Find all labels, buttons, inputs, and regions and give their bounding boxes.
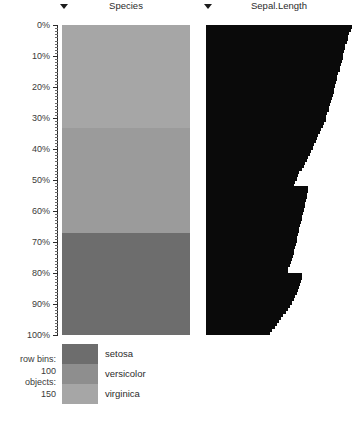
legend-label: setosa [105,344,146,364]
axis-tick-minor [55,189,58,190]
axis-tick-minor [55,307,58,308]
axis-tick-major [53,304,58,305]
species-column[interactable] [62,25,190,335]
species-band [62,233,190,335]
axis-tick-minor [55,245,58,246]
axis-tick-minor [55,165,58,166]
axis-tick-minor [55,217,58,218]
legend-swatch[interactable] [62,384,98,404]
axis-tick-label: 100% [27,330,50,340]
axis-tick-minor [55,31,58,32]
axis-tick-minor [55,53,58,54]
axis-tick-major [53,180,58,181]
axis-tick-minor [55,103,58,104]
axis-tick-major [53,149,58,150]
axis-tick-minor [55,196,58,197]
axis-tick-minor [55,177,58,178]
species-column-title: Species [62,0,190,11]
objects-label: objects: [0,377,56,389]
axis-tick-minor [55,289,58,290]
axis-tick-major [53,25,58,26]
axis-tick-minor [55,248,58,249]
axis-tick-label: 50% [32,175,50,185]
axis-tick-minor [55,320,58,321]
axis-tick-label: 70% [32,237,50,247]
axis-tick-major [53,56,58,57]
axis-tick-minor [55,34,58,35]
axis-tick-minor [55,161,58,162]
objects-value: 150 [0,389,56,401]
axis-tick-minor [55,90,58,91]
axis-tick-minor [55,28,58,29]
axis-tick-minor [55,75,58,76]
row-bins-label: row bins: [0,354,56,366]
axis-tick-minor [55,152,58,153]
axis-tick-minor [55,68,58,69]
row-bins-value: 100 [0,366,56,378]
axis-tick-minor [55,115,58,116]
axis-tick-minor [55,134,58,135]
axis-tick-minor [55,47,58,48]
axis-tick-minor [55,310,58,311]
axis-tick-minor [55,121,58,122]
axis-tick-major [53,335,58,336]
axis-tick-minor [55,62,58,63]
axis-tick-minor [55,233,58,234]
axis-tick-minor [55,298,58,299]
axis-tick-major [53,87,58,88]
axis-tick-minor [55,264,58,265]
legend-swatches [62,344,98,404]
axis-tick-minor [55,301,58,302]
axis-tick-minor [55,295,58,296]
axis-tick-minor [55,258,58,259]
axis-tick-minor [55,109,58,110]
axis-tick-minor [55,174,58,175]
axis-tick-minor [55,96,58,97]
axis-tick-minor [55,137,58,138]
legend-labels: setosaversicolorvirginica [105,344,146,404]
axis-tick-minor [55,223,58,224]
legend-footer: row bins: 100 objects: 150 setosaversico… [0,340,361,424]
axis-tick-minor [55,158,58,159]
axis-tick-label: 90% [32,299,50,309]
axis-tick-minor [55,313,58,314]
sepal-length-column-title: Sepal.Length [206,0,352,11]
axis-tick-label: 60% [32,206,50,216]
axis-tick-minor [55,168,58,169]
axis-tick-minor [55,146,58,147]
axis-tick-label: 20% [32,82,50,92]
species-band [62,128,190,232]
axis-tick-minor [55,93,58,94]
axis-tick-minor [55,329,58,330]
axis-tick-minor [55,254,58,255]
legend-swatch[interactable] [62,344,98,364]
axis-tick-minor [55,208,58,209]
axis-tick-minor [55,292,58,293]
axis-tick-minor [55,112,58,113]
axis-tick-minor [55,41,58,42]
axis-tick-major [53,242,58,243]
axis-tick-minor [55,72,58,73]
axis-tick-label: 40% [32,144,50,154]
sepal-length-column[interactable] [206,25,352,335]
axis-tick-minor [55,44,58,45]
stats-block: row bins: 100 objects: 150 [0,354,56,400]
axis-tick-minor [55,332,58,333]
axis-tick-minor [55,78,58,79]
axis-tick-minor [55,205,58,206]
axis-tick-minor [55,316,58,317]
axis-tick-minor [55,127,58,128]
axis-tick-major [53,273,58,274]
axis-tick-minor [55,323,58,324]
axis-tick-major [53,211,58,212]
legend-swatch[interactable] [62,364,98,384]
axis-tick-minor [55,106,58,107]
percentile-axis: 0%10%20%30%40%50%60%70%80%90%100% [0,25,62,335]
axis-tick-minor [55,236,58,237]
axis-tick-label: 80% [32,268,50,278]
axis-tick-minor [55,282,58,283]
axis-tick-minor [55,37,58,38]
axis-tick-minor [55,155,58,156]
axis-tick-minor [55,124,58,125]
axis-tick-minor [55,99,58,100]
